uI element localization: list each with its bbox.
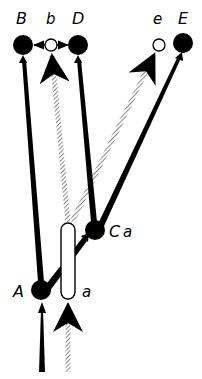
label-E: E [178,9,189,28]
label-B: B [16,9,27,28]
arrowhead-input-A [38,302,46,313]
solid-edge-input-A [39,310,45,372]
capsule-a [61,223,75,299]
diagram-canvas: B b D e E C a A a [0,0,202,379]
node-A [31,280,51,300]
solid-edge-A-B [22,60,44,282]
node-C [85,220,105,240]
arrowhead-A-B [19,55,27,63]
arrowhead-C-D [74,55,82,63]
node-b [45,39,57,51]
label-b: b [46,10,56,28]
node-e [153,39,165,51]
label-C: C [109,222,121,241]
label-e: e [153,10,162,28]
label-C-sub: a [123,223,132,241]
solid-pathways [19,52,183,372]
label-D: D [72,9,84,28]
hatched-edge-a-b [52,56,68,222]
solid-edge-C-D [77,60,97,222]
node-B [13,35,33,55]
label-A: A [12,282,24,301]
node-D [68,35,88,55]
node-E [173,33,193,53]
label-a: a [82,283,91,301]
